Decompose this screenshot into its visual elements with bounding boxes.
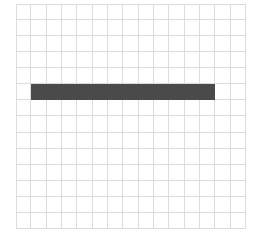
- grid-cell[interactable]: [231, 84, 246, 100]
- grid-cell[interactable]: [139, 197, 154, 213]
- grid-cell[interactable]: [93, 165, 108, 181]
- grid-cell[interactable]: [185, 100, 200, 116]
- grid-cell[interactable]: [123, 133, 138, 149]
- grid-cell[interactable]: [154, 149, 169, 165]
- grid-cell[interactable]: [77, 116, 92, 132]
- grid-cell[interactable]: [47, 52, 62, 68]
- grid-cell[interactable]: [169, 149, 184, 165]
- grid-cell[interactable]: [31, 100, 46, 116]
- grid-cell[interactable]: [154, 36, 169, 52]
- grid-cell[interactable]: [123, 149, 138, 165]
- grid-cell[interactable]: [62, 36, 77, 52]
- grid-cell[interactable]: [31, 197, 46, 213]
- grid-cell[interactable]: [47, 36, 62, 52]
- grid-cell[interactable]: [93, 213, 108, 229]
- grid-cell[interactable]: [93, 133, 108, 149]
- grid-cell[interactable]: [139, 165, 154, 181]
- grid-cell[interactable]: [47, 197, 62, 213]
- grid-cell[interactable]: [108, 165, 123, 181]
- horizontal-bar[interactable]: [31, 84, 215, 100]
- grid-cell[interactable]: [215, 36, 230, 52]
- grid-cell[interactable]: [108, 149, 123, 165]
- grid-cell[interactable]: [108, 68, 123, 84]
- grid-cell[interactable]: [154, 116, 169, 132]
- grid-cell[interactable]: [93, 181, 108, 197]
- grid-cell[interactable]: [231, 100, 246, 116]
- grid-cell[interactable]: [169, 100, 184, 116]
- grid-cell[interactable]: [123, 4, 138, 20]
- grid-cell[interactable]: [31, 36, 46, 52]
- grid-cell[interactable]: [31, 20, 46, 36]
- grid-cell[interactable]: [169, 36, 184, 52]
- grid-cell[interactable]: [16, 165, 31, 181]
- grid-cell[interactable]: [231, 213, 246, 229]
- grid-cell[interactable]: [77, 100, 92, 116]
- grid-cell[interactable]: [31, 149, 46, 165]
- grid-cell[interactable]: [108, 20, 123, 36]
- grid-cell[interactable]: [93, 4, 108, 20]
- grid-cell[interactable]: [47, 68, 62, 84]
- grid-cell[interactable]: [16, 36, 31, 52]
- grid-cell[interactable]: [185, 52, 200, 68]
- grid-cell[interactable]: [185, 20, 200, 36]
- grid-cell[interactable]: [139, 213, 154, 229]
- grid-cell[interactable]: [16, 133, 31, 149]
- grid-cell[interactable]: [62, 52, 77, 68]
- grid-cell[interactable]: [185, 197, 200, 213]
- grid-cell[interactable]: [62, 116, 77, 132]
- grid-cell[interactable]: [77, 213, 92, 229]
- grid-cell[interactable]: [47, 116, 62, 132]
- grid-cell[interactable]: [16, 20, 31, 36]
- grid-cell[interactable]: [123, 68, 138, 84]
- grid-cell[interactable]: [77, 149, 92, 165]
- grid-cell[interactable]: [108, 197, 123, 213]
- grid-cell[interactable]: [77, 197, 92, 213]
- grid-cell[interactable]: [169, 4, 184, 20]
- grid-cell[interactable]: [185, 213, 200, 229]
- grid-cell[interactable]: [169, 52, 184, 68]
- grid-cell[interactable]: [231, 4, 246, 20]
- grid-cell[interactable]: [169, 213, 184, 229]
- grid-cell[interactable]: [215, 100, 230, 116]
- grid-cell[interactable]: [62, 100, 77, 116]
- grid-cell[interactable]: [93, 197, 108, 213]
- grid-cell[interactable]: [62, 133, 77, 149]
- grid-cell[interactable]: [139, 181, 154, 197]
- grid-cell[interactable]: [169, 116, 184, 132]
- grid-cell[interactable]: [139, 52, 154, 68]
- grid-cell[interactable]: [231, 181, 246, 197]
- grid-cell[interactable]: [16, 68, 31, 84]
- grid-cell[interactable]: [16, 181, 31, 197]
- grid-cell[interactable]: [139, 68, 154, 84]
- grid-cell[interactable]: [62, 213, 77, 229]
- grid-cell[interactable]: [108, 36, 123, 52]
- grid-cell[interactable]: [31, 213, 46, 229]
- grid-cell[interactable]: [31, 68, 46, 84]
- grid-cell[interactable]: [16, 213, 31, 229]
- grid-cell[interactable]: [47, 213, 62, 229]
- grid-cell[interactable]: [215, 4, 230, 20]
- grid-cell[interactable]: [169, 181, 184, 197]
- grid-cell[interactable]: [185, 181, 200, 197]
- grid-cell[interactable]: [169, 133, 184, 149]
- grid-cell[interactable]: [200, 133, 215, 149]
- grid-cell[interactable]: [200, 165, 215, 181]
- grid-cell[interactable]: [139, 4, 154, 20]
- grid-cell[interactable]: [154, 4, 169, 20]
- grid-cell[interactable]: [47, 149, 62, 165]
- grid-cell[interactable]: [154, 213, 169, 229]
- grid-cell[interactable]: [169, 165, 184, 181]
- grid-cell[interactable]: [185, 36, 200, 52]
- grid-cell[interactable]: [215, 20, 230, 36]
- grid-cell[interactable]: [215, 133, 230, 149]
- grid-cell[interactable]: [31, 181, 46, 197]
- grid-cell[interactable]: [215, 149, 230, 165]
- grid-cell[interactable]: [31, 52, 46, 68]
- grid-cell[interactable]: [123, 100, 138, 116]
- grid-cell[interactable]: [231, 52, 246, 68]
- grid-cell[interactable]: [215, 213, 230, 229]
- grid-cell[interactable]: [47, 165, 62, 181]
- grid-cell[interactable]: [185, 133, 200, 149]
- grid-cell[interactable]: [123, 181, 138, 197]
- grid-cell[interactable]: [123, 52, 138, 68]
